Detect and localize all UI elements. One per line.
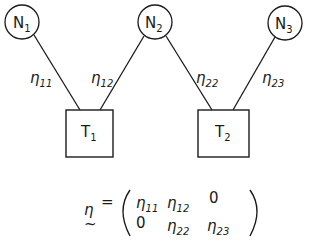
edge-label-eta12: η12 xyxy=(91,69,113,89)
node-n3: N3 xyxy=(268,6,302,40)
matrix-equation: η ~ = η11 η12 0 0 η22 η23 xyxy=(84,189,257,237)
edge-n1-t1 xyxy=(34,35,80,110)
matrix-cell-2-1: 0 xyxy=(136,214,146,232)
target-t2: T2 xyxy=(198,110,249,157)
target-t1: T1 xyxy=(66,110,113,157)
matrix-cell-1-2: η12 xyxy=(167,194,189,214)
node-n1: N1 xyxy=(5,5,39,39)
node-n2: N2 xyxy=(138,5,172,39)
tilde-underline: ~ xyxy=(84,215,97,233)
matrix-cell-2-3: η23 xyxy=(207,217,229,237)
edge-n2-t1 xyxy=(100,36,144,110)
edge-label-eta23: η23 xyxy=(262,69,284,89)
edge-label-eta22: η22 xyxy=(196,69,218,89)
bipartite-diagram: N1 N2 N3 T1 T2 η11 η12 η22 η23 η ~ = xyxy=(0,0,309,243)
left-paren xyxy=(123,190,130,236)
matrix-cell-2-2: η22 xyxy=(167,217,189,237)
nodes: N1 N2 N3 xyxy=(5,5,302,40)
edge-label-eta11: η11 xyxy=(30,69,52,89)
matrix-cell-1-1: η11 xyxy=(136,194,158,214)
equals-sign: = xyxy=(101,193,114,211)
right-paren xyxy=(250,190,257,236)
edges xyxy=(34,35,275,110)
targets: T1 T2 xyxy=(66,110,249,157)
matrix-cell-1-3: 0 xyxy=(209,189,219,207)
